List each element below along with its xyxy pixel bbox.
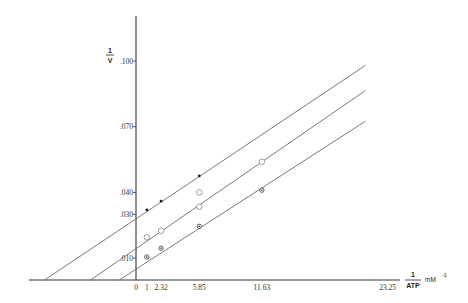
open-circle-marker [259,159,265,165]
dotted-circle-center [146,256,148,258]
data-points [144,159,265,259]
regression-line [119,121,365,280]
open-circle-marker [144,234,150,240]
y-tick-label: .040 [120,188,133,197]
open-circle-marker [196,204,202,210]
x-tick-label: 5.85 [193,283,206,292]
tick-marks: .010.030.040.070.100012.325.8511.6323.25 [120,57,396,293]
dotted-circle-center [160,247,162,249]
y-tick-label: .100 [120,57,133,66]
open-circle-marker [158,228,164,234]
lineweaver-burk-plot: .010.030.040.070.100012.325.8511.6323.25… [0,0,468,303]
x-tick-label: 23.25 [379,283,396,292]
regression-line [91,91,366,280]
x-tick-label: 0 [134,283,138,292]
regression-line [45,65,366,280]
x-tick-label: 2.32 [155,283,168,292]
regression-lines [45,65,366,280]
y-axis-label: 1 V [106,47,114,64]
x-axis-label-denominator: ATP [406,282,420,289]
x-tick-label: 1 [145,283,149,292]
y-axis-label-numerator: 1 [108,47,112,54]
x-axis-unit: mM [425,276,436,283]
y-axis-label-denominator: V [108,57,113,64]
y-tick-label: .070 [120,122,133,131]
x-axis-unit-exponent: -1 [442,272,447,278]
dotted-circle-center [198,226,200,228]
axes [29,16,400,280]
y-tick-label: .030 [120,210,133,219]
dotted-circle-center [261,189,263,191]
filled-dot-marker [198,175,201,178]
filled-dot-marker [160,200,163,203]
x-axis-label: 1 ATP mM -1 [405,271,447,289]
filled-dot-marker [145,209,148,212]
open-circle-marker [196,190,202,196]
x-tick-label: 11.63 [254,283,271,292]
x-axis-label-numerator: 1 [411,271,415,278]
